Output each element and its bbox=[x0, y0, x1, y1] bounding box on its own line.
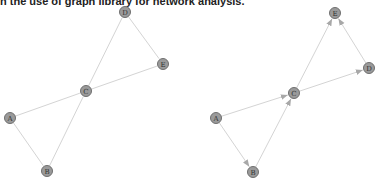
edge-A-B bbox=[13, 123, 43, 166]
edge-D-E bbox=[338, 19, 366, 64]
svg-text:D: D bbox=[366, 65, 372, 73]
directed-graph: ABCDE bbox=[211, 8, 375, 178]
svg-text:E: E bbox=[160, 61, 165, 69]
undirected-graph: ABCDE bbox=[5, 7, 169, 177]
edge-A-C bbox=[15, 93, 80, 116]
svg-text:C: C bbox=[83, 88, 88, 96]
node-A: A bbox=[5, 113, 16, 124]
edge-A-B bbox=[219, 123, 249, 167]
node-C: C bbox=[289, 88, 300, 99]
node-A: A bbox=[211, 113, 222, 124]
node-B: B bbox=[248, 167, 259, 178]
node-D: D bbox=[364, 63, 375, 74]
edge-C-E bbox=[297, 19, 333, 88]
edge-B-C bbox=[49, 97, 83, 166]
edge-A-C bbox=[221, 95, 288, 116]
svg-text:C: C bbox=[291, 90, 296, 98]
svg-text:B: B bbox=[44, 168, 49, 176]
edge-C-D bbox=[299, 70, 363, 91]
svg-text:A: A bbox=[212, 115, 219, 123]
node-B: B bbox=[42, 166, 53, 177]
edge-D-E bbox=[128, 16, 159, 58]
svg-text:B: B bbox=[250, 169, 255, 177]
node-E: E bbox=[330, 8, 341, 19]
edge-C-D bbox=[88, 18, 122, 86]
edge-B-C bbox=[256, 99, 291, 167]
node-E: E bbox=[158, 59, 169, 70]
node-D: D bbox=[120, 7, 131, 18]
edge-C-E bbox=[91, 66, 157, 89]
node-C: C bbox=[81, 86, 92, 97]
svg-text:A: A bbox=[6, 115, 13, 123]
svg-text:E: E bbox=[332, 10, 337, 18]
svg-text:D: D bbox=[122, 9, 128, 17]
network-diagram: ABCDE ABCDE bbox=[0, 0, 379, 183]
